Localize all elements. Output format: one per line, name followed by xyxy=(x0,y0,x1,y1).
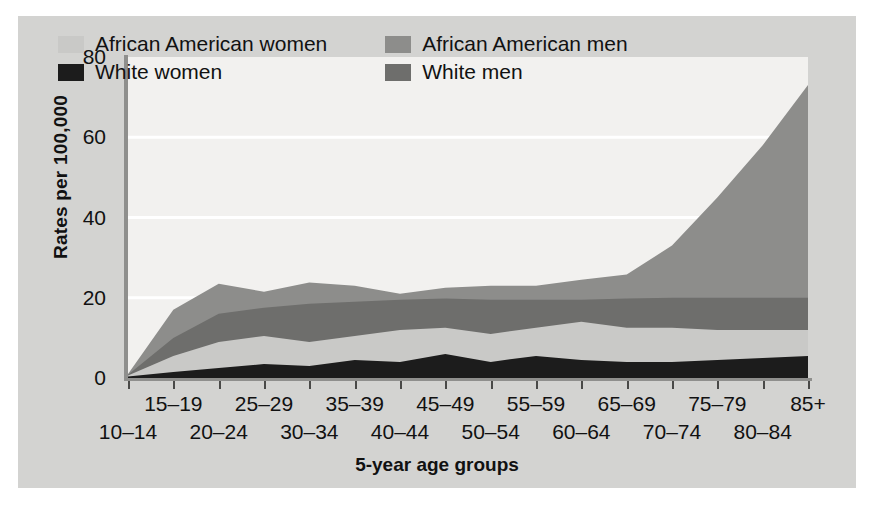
legend-swatch-icon-2 xyxy=(58,64,84,81)
x-tick-label-11: 65–69 xyxy=(597,392,655,416)
x-tick-4 xyxy=(309,381,311,389)
x-tick-5 xyxy=(355,381,357,389)
x-tick-label-3: 25–29 xyxy=(235,392,293,416)
x-axis-ticks xyxy=(128,381,808,391)
legend-label-1: African American men xyxy=(422,32,627,56)
legend-label-2: White women xyxy=(95,60,222,84)
x-tick-label-10: 60–64 xyxy=(552,420,610,444)
x-tick-label-14: 80–84 xyxy=(733,420,791,444)
x-tick-1 xyxy=(173,381,175,389)
legend-swatch-icon-1 xyxy=(385,36,411,53)
x-tick-15 xyxy=(808,381,810,389)
y-tick-40: 40 xyxy=(66,207,106,228)
x-tick-0 xyxy=(128,381,130,389)
x-tick-label-5: 35–39 xyxy=(325,392,383,416)
x-tick-2 xyxy=(219,381,221,389)
figure-root: Rates per 100,000 020406080 10–1415–1920… xyxy=(0,0,873,514)
x-tick-label-15: 85+ xyxy=(790,392,826,416)
legend-label-3: White men xyxy=(422,60,522,84)
x-tick-3 xyxy=(264,381,266,389)
x-tick-label-7: 45–49 xyxy=(416,392,474,416)
legend-item-0: African American women xyxy=(58,32,327,56)
x-tick-6 xyxy=(400,381,402,389)
plot-area xyxy=(128,57,808,378)
y-tick-60: 60 xyxy=(66,126,106,147)
x-tick-14 xyxy=(763,381,765,389)
legend-item-2: White women xyxy=(58,60,327,84)
x-tick-7 xyxy=(445,381,447,389)
x-tick-13 xyxy=(717,381,719,389)
chart-legend: African American womenAfrican American m… xyxy=(58,32,628,84)
legend-label-0: African American women xyxy=(95,32,327,56)
x-tick-9 xyxy=(536,381,538,389)
x-tick-12 xyxy=(672,381,674,389)
x-tick-8 xyxy=(491,381,493,389)
x-tick-label-12: 70–74 xyxy=(643,420,701,444)
x-tick-label-6: 40–44 xyxy=(371,420,429,444)
x-tick-label-8: 50–54 xyxy=(461,420,519,444)
x-tick-label-13: 75–79 xyxy=(688,392,746,416)
y-tick-0: 0 xyxy=(66,367,106,388)
legend-swatch-icon-3 xyxy=(385,64,411,81)
x-tick-label-9: 55–59 xyxy=(507,392,565,416)
x-tick-label-4: 30–34 xyxy=(280,420,338,444)
legend-item-1: African American men xyxy=(385,32,627,56)
legend-item-3: White men xyxy=(385,60,627,84)
x-tick-label-2: 20–24 xyxy=(189,420,247,444)
area-chart-svg xyxy=(128,57,808,378)
x-tick-10 xyxy=(581,381,583,389)
x-tick-label-0: 10–14 xyxy=(99,420,157,444)
y-tick-20: 20 xyxy=(66,287,106,308)
legend-swatch-icon-0 xyxy=(58,36,84,53)
x-axis-title: 5-year age groups xyxy=(18,454,856,476)
chart-panel: Rates per 100,000 020406080 10–1415–1920… xyxy=(18,16,856,488)
x-tick-11 xyxy=(627,381,629,389)
x-axis-tick-labels: 10–1415–1920–2425–2930–3435–3940–4445–49… xyxy=(18,392,856,452)
x-tick-label-1: 15–19 xyxy=(144,392,202,416)
